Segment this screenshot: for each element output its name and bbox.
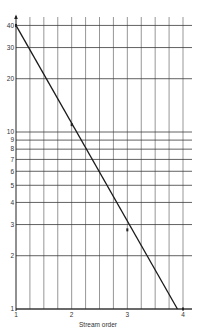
y-tick-label: 8 [10, 145, 14, 152]
axes [14, 15, 192, 312]
y-tick-label: 30 [7, 44, 15, 51]
vertical-gridlines [30, 17, 183, 309]
y-tick-label: 40 [7, 22, 15, 29]
y-tick-label: 3 [10, 221, 14, 228]
fitted-line [16, 25, 177, 309]
data-point [182, 308, 184, 311]
data-point [15, 24, 17, 27]
data-point [71, 123, 73, 126]
x-tick-label: 2 [70, 311, 74, 318]
y-tick-label: 2 [10, 252, 14, 259]
y-tick-labels: 12345678910203040 [7, 22, 15, 313]
x-tick-label: 3 [126, 311, 130, 318]
data-point [126, 228, 128, 231]
x-tick-label: 4 [181, 311, 185, 318]
y-tick-label: 6 [10, 168, 14, 175]
x-tick-labels: 1234 [14, 311, 185, 318]
y-axis-arrow-icon [14, 15, 18, 20]
y-tick-label: 9 [10, 136, 14, 143]
y-tick-label: 7 [10, 156, 14, 163]
y-tick-label: 20 [7, 75, 15, 82]
horizontal-gridlines [16, 25, 192, 309]
y-tick-label: 10 [7, 128, 15, 135]
x-tick-label: 1 [14, 311, 18, 318]
y-tick-label: 5 [10, 182, 14, 189]
stream-order-chart: 12345678910203040 1234 Stream order [0, 0, 202, 335]
y-tick-label: 4 [10, 199, 14, 206]
x-axis-title: Stream order [79, 321, 118, 328]
